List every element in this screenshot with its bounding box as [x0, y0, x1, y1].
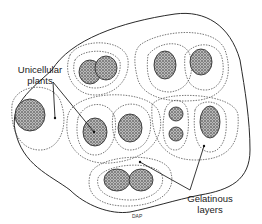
group-right	[152, 95, 238, 160]
cell	[169, 107, 183, 121]
label-unicellular-line1: Unicellular	[10, 64, 70, 75]
label-gelatinous-line1: Gelatinous	[180, 193, 240, 204]
cell	[95, 56, 117, 80]
cell	[154, 51, 176, 79]
credit-initials: DAP	[132, 213, 142, 219]
cell	[169, 127, 183, 141]
group-center	[67, 95, 161, 163]
group-top-right	[135, 33, 228, 101]
cell	[129, 169, 153, 191]
cell	[190, 49, 212, 75]
label-gelatinous-layers: Gelatinous layers	[180, 193, 240, 215]
cell	[15, 99, 45, 131]
cell	[104, 169, 130, 191]
cell	[118, 114, 142, 142]
label-gelatinous-line2: layers	[180, 204, 240, 215]
cell	[200, 106, 220, 138]
label-unicellular-line2: plants	[10, 75, 70, 86]
colony-diagram	[0, 0, 262, 224]
label-unicellular-plants: Unicellular plants	[10, 64, 70, 86]
